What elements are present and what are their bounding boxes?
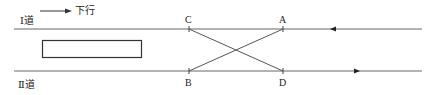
track-1-left-arrow-icon <box>330 27 336 32</box>
point-d-label: D <box>279 78 286 88</box>
track-1-label: Ⅰ道 <box>20 16 34 26</box>
legend-right-arrow-icon <box>40 9 72 14</box>
point-b-label: B <box>185 78 192 88</box>
track-2-right-arrow-icon <box>354 69 360 74</box>
platform-rectangle <box>43 41 142 58</box>
point-c-label: C <box>185 15 192 25</box>
track-diagram <box>0 0 433 95</box>
track-2-label: Ⅱ道 <box>18 80 35 90</box>
legend-direction-label: 下行 <box>75 6 95 16</box>
point-a-label: A <box>279 15 286 25</box>
